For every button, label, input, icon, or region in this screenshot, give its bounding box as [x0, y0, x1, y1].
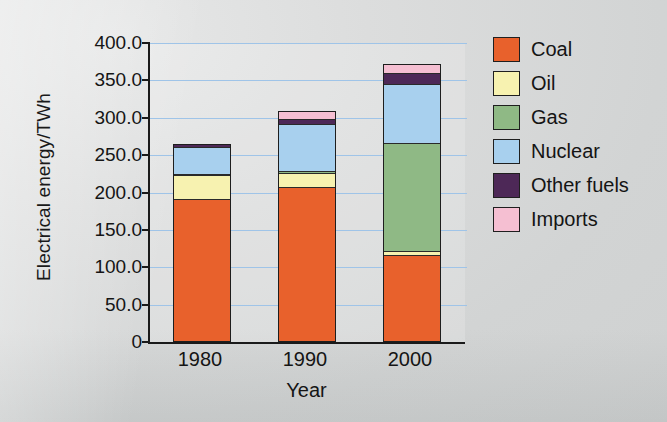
bar-segment-other-fuels[interactable]: [384, 74, 440, 85]
legend: CoalOilGasNuclearOther fuelsImports: [493, 36, 629, 232]
bar-segment-oil[interactable]: [279, 174, 335, 187]
bar-segment-oil[interactable]: [174, 176, 230, 200]
bar-segment-imports[interactable]: [279, 112, 335, 120]
legend-swatch-icon: [493, 37, 520, 62]
x-tick-label-2000: 2000: [388, 348, 433, 371]
gridline: [150, 43, 467, 44]
y-tick-mark: [142, 304, 150, 306]
bar-segment-imports[interactable]: [384, 65, 440, 74]
y-tick-mark: [142, 79, 150, 81]
y-tick-label: 100.0: [94, 256, 142, 278]
bar-segment-coal[interactable]: [174, 200, 230, 341]
bar-2000[interactable]: [383, 64, 441, 342]
legend-swatch-icon: [493, 207, 520, 232]
legend-item-imports[interactable]: Imports: [493, 206, 629, 232]
x-tick-label-1980: 1980: [178, 348, 223, 371]
y-tick-mark: [142, 154, 150, 156]
y-tick-label: 400.0: [94, 32, 142, 54]
plot-area: [148, 43, 465, 344]
legend-label: Gas: [531, 107, 568, 127]
stacked-bar-chart: Electrical energy/TWh 050.0100.0150.0200…: [0, 0, 667, 422]
legend-label: Imports: [531, 209, 598, 229]
y-tick-label: 0: [131, 331, 142, 353]
bar-segment-nuclear[interactable]: [279, 125, 335, 172]
y-tick-mark: [142, 117, 150, 119]
y-tick-label: 350.0: [94, 69, 142, 91]
y-tick-label: 50.0: [105, 294, 142, 316]
x-tick-label-1990: 1990: [283, 348, 328, 371]
y-axis-title: Electrical energy/TWh: [33, 47, 55, 327]
bar-segment-gas[interactable]: [384, 144, 440, 252]
bar-segment-nuclear[interactable]: [384, 85, 440, 144]
y-tick-mark: [142, 341, 150, 343]
y-tick-label: 250.0: [94, 144, 142, 166]
bar-1990[interactable]: [278, 111, 336, 342]
legend-swatch-icon: [493, 71, 520, 96]
legend-swatch-icon: [493, 139, 520, 164]
y-tick-mark: [142, 192, 150, 194]
x-axis-title: Year: [148, 379, 465, 402]
y-tick-mark: [142, 42, 150, 44]
y-axis-tick-labels: 050.0100.0150.0200.0250.0300.0350.0400.0: [58, 43, 142, 342]
legend-item-gas[interactable]: Gas: [493, 104, 629, 130]
bar-segment-nuclear[interactable]: [174, 148, 230, 175]
legend-item-oil[interactable]: Oil: [493, 70, 629, 96]
bar-segment-coal[interactable]: [384, 256, 440, 341]
legend-label: Oil: [531, 73, 555, 93]
legend-item-coal[interactable]: Coal: [493, 36, 629, 62]
legend-label: Nuclear: [531, 141, 600, 161]
y-tick-label: 300.0: [94, 107, 142, 129]
y-tick-mark: [142, 266, 150, 268]
y-tick-label: 200.0: [94, 182, 142, 204]
y-tick-label: 150.0: [94, 219, 142, 241]
legend-swatch-icon: [493, 105, 520, 130]
y-tick-mark: [142, 229, 150, 231]
bar-1980[interactable]: [173, 144, 231, 342]
bar-segment-coal[interactable]: [279, 188, 335, 341]
x-axis-tick-labels: 198019902000: [148, 348, 465, 378]
legend-swatch-icon: [493, 173, 520, 198]
legend-item-other-fuels[interactable]: Other fuels: [493, 172, 629, 198]
legend-label: Other fuels: [531, 175, 629, 195]
legend-item-nuclear[interactable]: Nuclear: [493, 138, 629, 164]
legend-label: Coal: [531, 39, 572, 59]
